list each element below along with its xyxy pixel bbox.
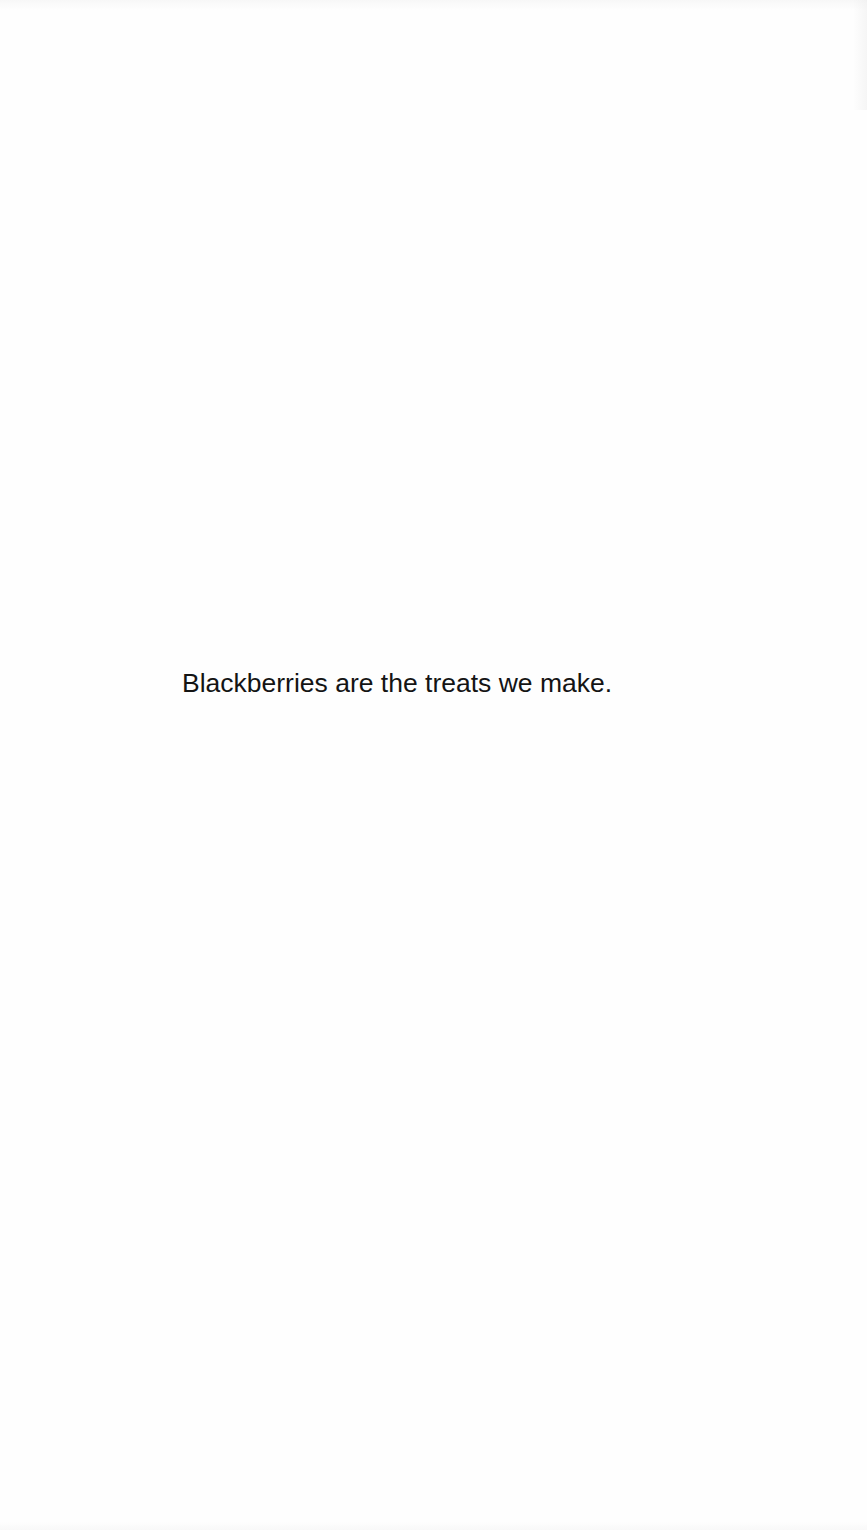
body-sentence: Blackberries are the treats we make. [182, 666, 612, 700]
scan-edge-shadow-right [853, 0, 867, 110]
scan-edge-shadow-top [0, 0, 867, 10]
scan-edge-shadow-bottom [0, 1522, 867, 1530]
document-page: Blackberries are the treats we make. [0, 0, 867, 1530]
